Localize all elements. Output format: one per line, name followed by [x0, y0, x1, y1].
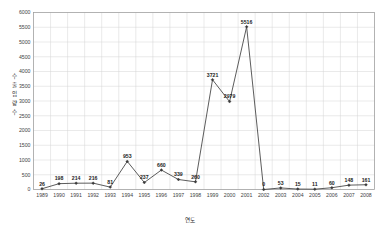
y-axis-tick-label: 500: [22, 172, 31, 178]
y-axis-title: 수출입량수: [12, 73, 17, 116]
data-point-value-label: 11: [312, 181, 318, 187]
data-point-value-label: 660: [157, 162, 166, 168]
x-axis-tick-label: 2007: [343, 192, 355, 198]
data-point-value-label: 5516: [241, 19, 253, 25]
data-point-value-label: 214: [72, 175, 81, 181]
x-axis-tick-label: 1989: [36, 192, 48, 198]
chart-canvas: 0500100015002000250030003500400045005000…: [0, 0, 381, 230]
y-axis-tick-label: 2000: [19, 127, 31, 133]
data-point-value-label: 148: [345, 177, 354, 183]
data-point-value-label: 2979: [224, 93, 236, 99]
data-point-value-label: 953: [123, 153, 132, 159]
y-axis-tick-label: 0: [28, 186, 31, 192]
y-axis-title-char: 량: [12, 100, 17, 106]
y-axis-tick-label: 4000: [19, 68, 31, 74]
data-point-value-label: 161: [362, 177, 371, 183]
data-point-value-label: 198: [55, 175, 64, 181]
x-axis-tick-label: 1993: [104, 192, 116, 198]
y-axis-tick-label: 1000: [19, 157, 31, 163]
x-axis-tick-label: 2005: [309, 192, 321, 198]
x-axis-tick-label: 1996: [156, 192, 168, 198]
x-axis-tick-label: 1992: [87, 192, 99, 198]
data-point-value-label: 26: [39, 181, 45, 187]
x-axis-tick-label: 2004: [292, 192, 304, 198]
data-point-value-label: 0: [262, 181, 265, 187]
y-axis-tick-label: 1500: [19, 142, 31, 148]
data-point-value-label: 216: [89, 175, 98, 181]
line-chart: 0500100015002000250030003500400045005000…: [0, 0, 381, 230]
y-axis-tick-labels: 0500100015002000250030003500400045005000…: [19, 9, 31, 192]
data-point-value-label: 339: [174, 171, 183, 177]
y-axis-tick-label: 2500: [19, 113, 31, 119]
x-axis-title-text: 연도: [185, 216, 195, 223]
y-axis-tick-label: 5000: [19, 39, 31, 45]
y-axis-tick-label: 4500: [19, 54, 31, 60]
x-axis-tick-label: 2006: [326, 192, 338, 198]
y-axis-tick-label: 3000: [19, 98, 31, 104]
data-point-value-label: 15: [295, 181, 301, 187]
x-axis-tick-label: 2002: [258, 192, 270, 198]
x-axis-tick-label: 1991: [70, 192, 82, 198]
x-axis-tick-label: 2000: [224, 192, 236, 198]
x-axis-tick-labels: 1989199019911992199319941995199619971998…: [36, 192, 372, 198]
y-axis-tick-label: 5500: [19, 24, 31, 30]
data-point-value-label: 3721: [207, 72, 219, 78]
y-axis-title-char: 입: [12, 90, 17, 97]
data-point-value-label: 60: [329, 180, 335, 186]
vertical-gridlines: [34, 13, 375, 190]
x-axis-tick-label: 2001: [241, 192, 253, 198]
y-axis-title-char: 출: [12, 81, 17, 88]
x-axis-tick-label: 1998: [190, 192, 202, 198]
y-axis-tick-label: 6000: [19, 9, 31, 15]
data-point-value-label: 53: [278, 180, 284, 186]
data-point-value-label: 237: [140, 174, 149, 180]
data-point-value-label: 260: [191, 174, 200, 180]
x-axis-tick-label: 1999: [207, 192, 219, 198]
x-axis-tick-label: 1990: [53, 192, 65, 198]
x-axis-tick-label: 1997: [173, 192, 185, 198]
x-axis-tick-label: 2003: [275, 192, 287, 198]
y-axis-tick-label: 3500: [19, 83, 31, 89]
x-axis-tick-label: 2008: [360, 192, 372, 198]
y-axis-title-char: 수: [12, 73, 17, 80]
x-axis-tick-label: 1995: [139, 192, 151, 198]
x-axis-tick-label: 1994: [122, 192, 134, 198]
data-point-value-label: 81: [107, 179, 113, 185]
y-axis-title-char: 수: [12, 109, 17, 116]
